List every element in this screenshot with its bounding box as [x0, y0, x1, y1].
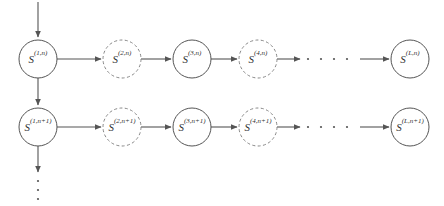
row-np1-ellipsis-dot	[333, 126, 335, 128]
row-np1-ellipsis-dot	[346, 126, 348, 128]
node-s-2-n[interactable]: S(2,n)	[103, 40, 141, 78]
state-chain-diagram: S(1,n) S(2,n) S(3,n) S(4,n) S(L,n)	[0, 0, 444, 206]
node-s-1-n[interactable]: S(1,n)	[19, 40, 57, 78]
node-s-3-n[interactable]: S(3,n)	[173, 40, 211, 78]
node-circle-dashed	[103, 40, 141, 78]
node-circle-solid	[173, 40, 211, 78]
node-circle-dashed	[239, 40, 277, 78]
node-s-L-np1[interactable]: S(L,n+1)	[391, 108, 429, 146]
diagram-canvas: S(1,n) S(2,n) S(3,n) S(4,n) S(L,n)	[0, 0, 444, 206]
vertical-ellipsis-dot	[37, 198, 39, 200]
vertical-ellipsis-dot	[37, 189, 39, 191]
row-np1-ellipsis-dot	[307, 126, 309, 128]
node-circle-solid	[19, 40, 57, 78]
node-s-L-n[interactable]: S(L,n)	[391, 40, 429, 78]
node-s-4-n[interactable]: S(4,n)	[239, 40, 277, 78]
row-n-ellipsis-dot	[320, 58, 322, 60]
node-circle-solid	[391, 40, 429, 78]
row-np1-ellipsis-dot	[320, 126, 322, 128]
vertical-flow-group	[37, 2, 39, 200]
row-n-ellipsis-dot	[307, 58, 309, 60]
node-s-1-np1[interactable]: S(1,n+1)	[19, 108, 57, 146]
node-s-2-np1[interactable]: S(2,n+1)	[103, 108, 141, 146]
node-s-4-np1[interactable]: S(4,n+1)	[239, 108, 277, 146]
vertical-ellipsis-dot	[37, 180, 39, 182]
node-s-3-np1[interactable]: S(3,n+1)	[173, 108, 211, 146]
row-n-ellipsis-dot	[333, 58, 335, 60]
row-n-ellipsis-dot	[346, 58, 348, 60]
